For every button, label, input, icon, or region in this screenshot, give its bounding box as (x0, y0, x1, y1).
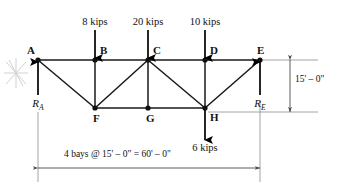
truss-member-HE (205, 60, 260, 108)
joint-label-E: E (257, 45, 264, 56)
truss-joint-C (145, 57, 150, 62)
truss-joints (35, 57, 262, 110)
truss-member-FC (95, 60, 148, 108)
truss-joint-E (257, 57, 262, 62)
joint-label-D: D (210, 45, 218, 56)
truss-joint-F (92, 105, 97, 110)
joint-label-G: G (146, 113, 155, 124)
reaction-e-label: RE (254, 98, 265, 112)
height-dimension-label: 15' – 0" (295, 75, 324, 85)
support-scribble-icon (4, 58, 28, 88)
load-b-label: 8 kips (82, 17, 107, 28)
span-dimension-label: 4 bays @ 15' – 0" = 60' – 0" (64, 150, 171, 160)
truss-member-AF (38, 60, 95, 108)
truss-drawing-canvas (0, 0, 337, 193)
truss-joint-A (35, 57, 40, 62)
load-h-label: 6 kips (192, 143, 217, 154)
dimension-extension-lines (38, 60, 318, 182)
reaction-a-label: RA (32, 98, 43, 112)
joint-label-C: C (153, 45, 161, 56)
truss-members (38, 60, 260, 108)
joint-label-B: B (100, 45, 107, 56)
load-c-label: 20 kips (133, 17, 164, 28)
truss-diagram: ABCDEFGH8 kips20 kips10 kips6 kipsRARE 1… (0, 0, 337, 193)
joint-label-F: F (93, 113, 100, 124)
joint-label-H: H (210, 112, 219, 123)
truss-joint-G (145, 105, 150, 110)
joint-label-A: A (27, 45, 35, 56)
load-d-label: 10 kips (190, 17, 221, 28)
truss-joint-D (202, 57, 207, 62)
truss-joint-B (92, 57, 97, 62)
truss-member-CH (148, 60, 205, 108)
truss-joint-H (202, 105, 207, 110)
